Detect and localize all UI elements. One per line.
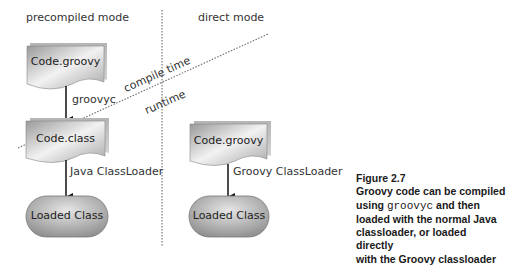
left-loaded-class-label: Loaded Class — [26, 209, 108, 222]
caption-line-3: loaded with the normal Java — [356, 213, 506, 226]
direct-mode-label: direct mode — [198, 11, 264, 24]
java-classloader-edge-label: Java ClassLoader — [70, 165, 163, 178]
caption-line-4: classloader, or loaded directly — [356, 226, 506, 253]
right-source-node-label: Code.groovy — [190, 134, 267, 147]
figure-caption: Figure 2.7 Groovy code can be compiled u… — [356, 172, 506, 266]
caption-code-groovyc: groovyc — [387, 200, 433, 212]
caption-line-2-suffix: and then — [433, 199, 480, 211]
compiled-node-label: Code.class — [26, 132, 105, 145]
precompiled-mode-label: precompiled mode — [26, 11, 129, 24]
groovyc-edge-label: groovyc — [72, 93, 116, 106]
caption-line-2-prefix: using — [356, 199, 387, 211]
figure-number: Figure 2.7 — [356, 172, 506, 185]
caption-line-5: with the Groovy classloader — [356, 253, 506, 266]
left-source-node-label: Code.groovy — [27, 55, 104, 68]
groovy-classloader-edge-label: Groovy ClassLoader — [233, 165, 342, 178]
caption-line-1: Groovy code can be compiled — [356, 185, 506, 198]
caption-line-2: using groovyc and then — [356, 199, 506, 213]
right-loaded-class-label: Loaded Class — [189, 209, 269, 222]
